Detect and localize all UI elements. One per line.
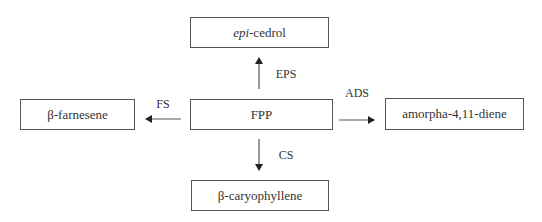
- node-fpp-label: FPP: [251, 107, 273, 123]
- node-amorpha-diene: amorpha-4,11-diene: [385, 98, 524, 130]
- node-amorpha-diene-label: amorpha-4,11-diene: [402, 106, 507, 122]
- node-beta-caryophyllene: β-caryophyllene: [191, 180, 329, 211]
- enzyme-label-eps: EPS: [276, 67, 297, 82]
- node-beta-farnesene-label: β-farnesene: [47, 107, 108, 123]
- enzyme-label-cs: CS: [279, 148, 294, 163]
- node-epi-cedrol-prefix: epi: [233, 25, 249, 41]
- node-fpp: FPP: [190, 99, 333, 130]
- node-beta-caryophyllene-label: β-caryophyllene: [218, 188, 303, 204]
- enzyme-label-ads: ADS: [345, 86, 369, 101]
- node-epi-cedrol: epi-cedrol: [190, 17, 329, 48]
- enzyme-label-fs: FS: [156, 97, 169, 112]
- node-beta-farnesene: β-farnesene: [20, 99, 135, 130]
- node-epi-cedrol-label: -cedrol: [249, 25, 286, 41]
